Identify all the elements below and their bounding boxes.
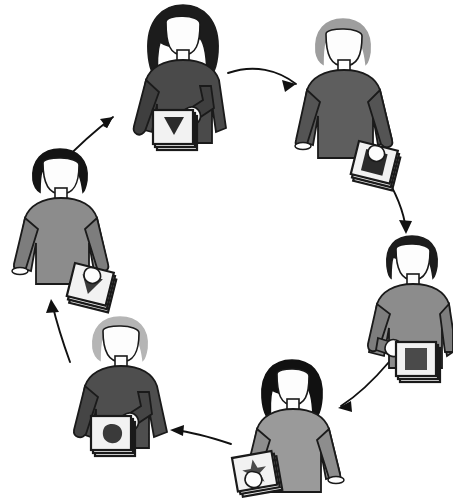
document-stack[interactable] [396, 342, 440, 382]
face [166, 16, 200, 55]
diagram-canvas [0, 0, 453, 499]
document-mark-blob [103, 424, 122, 443]
document-stack[interactable] [153, 110, 197, 150]
hand-right [84, 267, 101, 283]
hand-right [368, 145, 385, 161]
hand-left [295, 143, 311, 150]
document-stack[interactable] [91, 416, 135, 456]
cycle-diagram-svg [0, 0, 453, 499]
document-mark-square [405, 348, 427, 370]
hand-right [328, 477, 344, 484]
hand-left [245, 471, 262, 487]
hand-left [12, 268, 28, 275]
